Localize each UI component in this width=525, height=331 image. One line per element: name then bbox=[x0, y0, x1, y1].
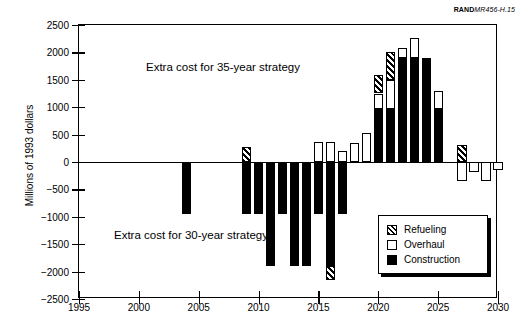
bar-segment-refueling bbox=[374, 75, 383, 93]
annotation-30-year: Extra cost for 30-year strategy bbox=[96, 228, 286, 242]
bar-segment-construction bbox=[434, 109, 443, 162]
legend-swatch-refueling-icon bbox=[387, 225, 397, 235]
bar-segment-construction bbox=[338, 162, 347, 214]
chart-legend: RefuelingOverhaulConstruction bbox=[378, 215, 488, 274]
x-tick-inner bbox=[199, 291, 200, 297]
bar-segment-overhaul bbox=[326, 142, 335, 162]
bar-segment-construction bbox=[290, 162, 299, 266]
bar-segment-overhaul bbox=[338, 151, 347, 162]
x-tick-label: 2000 bbox=[128, 302, 150, 313]
y-tick bbox=[72, 217, 79, 218]
x-tick-label: 2030 bbox=[487, 302, 509, 313]
x-tick-label: 2020 bbox=[367, 302, 389, 313]
legend-label: Overhaul bbox=[404, 239, 445, 250]
bar-segment-refueling bbox=[457, 145, 466, 162]
y-tick-label: 500 bbox=[52, 129, 69, 140]
bar-segment-construction bbox=[278, 162, 287, 214]
x-tick-label: 1995 bbox=[68, 302, 90, 313]
y-tick-label: 1500 bbox=[47, 74, 69, 85]
source-credit: RANDMR456-H.15 bbox=[454, 6, 515, 13]
y-tick bbox=[72, 299, 79, 300]
legend-item-construction: Construction bbox=[387, 252, 480, 267]
x-tick-label: 2005 bbox=[188, 302, 210, 313]
y-tick bbox=[72, 189, 79, 190]
bar-segment-construction bbox=[314, 162, 323, 214]
y-tick bbox=[72, 162, 79, 163]
bar-segment-overhaul bbox=[386, 80, 395, 109]
bar-2017 bbox=[338, 25, 347, 299]
bar-segment-construction bbox=[254, 162, 263, 214]
legend-label: Construction bbox=[404, 254, 460, 265]
legend-item-overhaul: Overhaul bbox=[387, 237, 480, 252]
y-tick-inner bbox=[79, 162, 85, 163]
y-tick bbox=[72, 80, 79, 81]
bar-segment-construction bbox=[410, 58, 419, 162]
y-tick-inner bbox=[79, 244, 85, 245]
y-tick-inner bbox=[79, 135, 85, 136]
bar-segment-construction bbox=[374, 109, 383, 162]
y-tick-inner bbox=[79, 52, 85, 53]
bar-2030 bbox=[493, 25, 502, 299]
y-tick-label: 2500 bbox=[47, 20, 69, 31]
bar-2018 bbox=[350, 25, 359, 299]
bar-segment-overhaul bbox=[314, 142, 323, 162]
legend-label: Refueling bbox=[404, 224, 446, 235]
bar-segment-overhaul bbox=[469, 162, 478, 172]
x-tick-inner bbox=[79, 291, 80, 297]
bar-segment-construction bbox=[326, 162, 335, 266]
bar-segment-overhaul bbox=[481, 162, 490, 181]
annotation-35-year: Extra cost for 35-year strategy bbox=[108, 60, 338, 74]
y-tick-inner bbox=[79, 107, 85, 108]
y-axis-title: Millions of 1993 dollars bbox=[24, 71, 35, 241]
bar-segment-refueling bbox=[242, 147, 251, 162]
y-tick-label: −2500 bbox=[41, 294, 69, 305]
bar-segment-construction bbox=[302, 162, 311, 266]
bar-segment-overhaul bbox=[457, 162, 466, 181]
bar-segment-construction bbox=[398, 58, 407, 162]
y-tick bbox=[72, 107, 79, 108]
bar-segment-construction bbox=[422, 58, 431, 162]
y-tick-inner bbox=[79, 189, 85, 190]
bar-segment-construction bbox=[182, 162, 191, 214]
bar-segment-construction bbox=[386, 109, 395, 162]
y-tick bbox=[72, 52, 79, 53]
bar-segment-overhaul bbox=[493, 162, 502, 170]
y-tick-inner bbox=[79, 272, 85, 273]
y-tick-label: −1500 bbox=[41, 239, 69, 250]
bar-segment-overhaul bbox=[350, 143, 359, 162]
bar-segment-refueling bbox=[386, 52, 395, 80]
bar-2019 bbox=[362, 25, 371, 299]
credit-number: MR456-H.15 bbox=[474, 6, 515, 13]
y-tick-label: 1000 bbox=[47, 102, 69, 113]
y-tick-inner bbox=[79, 217, 85, 218]
credit-brand: RAND bbox=[454, 6, 475, 13]
legend-swatch-overhaul-icon bbox=[387, 240, 397, 250]
y-tick bbox=[72, 244, 79, 245]
y-tick-inner bbox=[79, 80, 85, 81]
bar-segment-overhaul bbox=[434, 91, 443, 109]
y-tick bbox=[72, 135, 79, 136]
bar-segment-overhaul bbox=[410, 38, 419, 58]
y-tick bbox=[72, 272, 79, 273]
y-tick-label: −500 bbox=[46, 184, 69, 195]
bar-segment-refueling bbox=[326, 266, 335, 280]
bar-segment-construction bbox=[266, 162, 275, 266]
bar-segment-construction bbox=[242, 162, 251, 214]
legend-item-refueling: Refueling bbox=[387, 222, 480, 237]
bar-segment-overhaul bbox=[374, 94, 383, 109]
x-tick-label: 2015 bbox=[307, 302, 329, 313]
x-tick-inner bbox=[139, 291, 140, 297]
y-tick-inner bbox=[79, 25, 85, 26]
y-tick bbox=[72, 25, 79, 26]
y-tick-label: −2000 bbox=[41, 266, 69, 277]
x-tick-label: 2010 bbox=[247, 302, 269, 313]
y-tick-label: 0 bbox=[63, 157, 69, 168]
legend-swatch-construction-icon bbox=[387, 255, 397, 265]
chart-figure: RANDMR456-H.15 Millions of 1993 dollars … bbox=[0, 0, 525, 331]
bar-segment-overhaul bbox=[398, 48, 407, 58]
y-tick-label: −1000 bbox=[41, 211, 69, 222]
y-tick-label: 2000 bbox=[47, 47, 69, 58]
x-tick-label: 2025 bbox=[427, 302, 449, 313]
bar-segment-overhaul bbox=[362, 133, 371, 162]
